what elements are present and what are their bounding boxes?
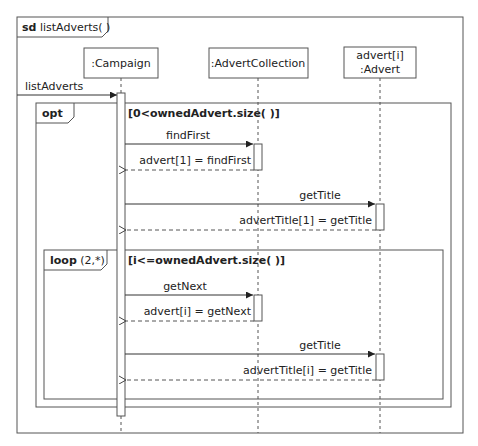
message-findFirst: findFirst advert[1] = findFirst [125, 129, 262, 170]
message-getTitle-2: getTitle advertTitle[i] = getTitle [125, 339, 384, 380]
frame-name: listAdverts( ) [40, 21, 110, 34]
svg-text:advert[i] = getNext: advert[i] = getNext [144, 305, 252, 318]
sequence-diagram: sd listAdverts( ) :Campaign :AdvertColle… [0, 0, 478, 446]
svg-text:getTitle: getTitle [299, 189, 341, 202]
collection-activation-1 [254, 144, 262, 170]
lifeline-advert-label-1: advert[i] [356, 49, 403, 62]
found-message-listAdverts: listAdverts [17, 80, 117, 95]
svg-text:sd listAdverts( ): sd listAdverts( ) [22, 21, 110, 34]
svg-text:findFirst: findFirst [166, 129, 211, 142]
svg-text:advertTitle[i] = getTitle: advertTitle[i] = getTitle [243, 364, 372, 377]
svg-text:advertTitle[1] = getTitle: advertTitle[1] = getTitle [239, 214, 372, 227]
loop-args: (2,*) [80, 254, 105, 267]
campaign-activation [117, 93, 125, 416]
lifeline-collection-label: :AdvertCollection [211, 57, 306, 70]
lifeline-advert-label-2: :Advert [360, 63, 401, 76]
opt-guard: [0<ownedAdvert.size( )] [128, 107, 280, 120]
message-getNext: getNext advert[i] = getNext [125, 280, 262, 321]
advert-activation-2 [376, 354, 384, 380]
svg-text:loop (2,*): loop (2,*) [50, 254, 105, 267]
loop-guard: [i<=ownedAdvert.size( )] [128, 254, 285, 267]
message-getTitle-1: getTitle advertTitle[1] = getTitle [125, 189, 384, 230]
found-message-label: listAdverts [25, 80, 84, 93]
svg-text:getTitle: getTitle [299, 339, 341, 352]
opt-operator: opt [42, 107, 63, 120]
frame-keyword: sd [22, 21, 36, 34]
advert-activation-1 [376, 204, 384, 230]
lifeline-campaign-label: :Campaign [91, 57, 151, 70]
svg-text:advert[1] = findFirst: advert[1] = findFirst [139, 154, 251, 167]
loop-operator: loop [50, 254, 77, 267]
collection-activation-2 [254, 295, 262, 321]
svg-text:getNext: getNext [163, 280, 207, 293]
